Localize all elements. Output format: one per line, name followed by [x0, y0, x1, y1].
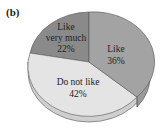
label-like-pct: 36% [107, 56, 125, 66]
label-lvm-line1: Like [57, 22, 74, 32]
label-dnl-pct: 42% [69, 89, 87, 99]
label-like-name: Like [107, 44, 124, 54]
label-lvm-pct: 22% [57, 44, 75, 54]
label-lvm-line2: very much [46, 33, 87, 43]
pie-chart: Like 36% Do not like 42% Like very much … [0, 0, 160, 131]
label-dnl-name: Do not like [57, 77, 100, 87]
